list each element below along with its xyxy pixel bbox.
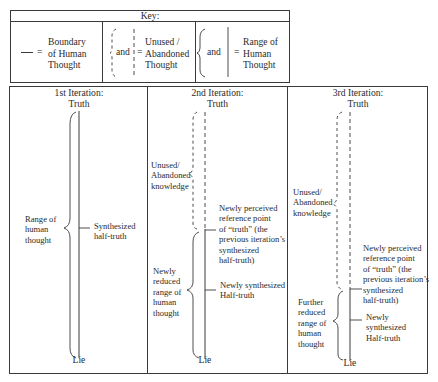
iteration-3-tick-label-2: Newly synthesized Half-truth [366,312,406,343]
iteration-3-lie: Lie [335,357,365,369]
iteration-3-unused-label: Unused/ Abandoned knowledge [293,187,333,218]
iteration-2-brace-label: Newly reduced range of human thought [153,266,181,318]
iteration-1-brace-label: Range of human thought [25,214,56,245]
iteration-1-tick-label-1: Synthesized half-truth [94,221,136,242]
iteration-2-tick-label-1: Newly perceived reference point of “trut… [219,203,285,265]
iteration-2-tick-label-2: Newly synthesized Half-truth [220,280,285,301]
iteration-3-brace-label: Further reduced range of human thought [298,297,326,349]
iteration-3-tick-label-1: Newly perceived reference point of “trut… [363,243,429,305]
iteration-2-unused-label: Unused/ Abandoned knowledge [151,160,191,191]
iteration-2-lie: Lie [190,354,220,366]
iteration-1-lie: Lie [64,354,94,366]
